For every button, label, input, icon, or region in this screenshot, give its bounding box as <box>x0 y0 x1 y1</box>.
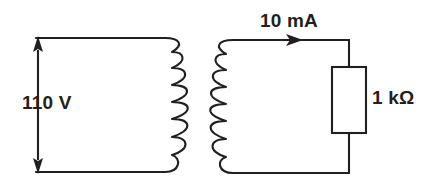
circuit-diagram: 110 V 10 mA 1 kΩ <box>0 0 438 194</box>
resistor-body <box>332 67 366 133</box>
primary-coil-inductor <box>165 38 188 172</box>
resistor-value-label: 1 kΩ <box>372 88 414 107</box>
secondary-current-label: 10 mA <box>260 11 318 30</box>
secondary-circuit-group <box>210 34 366 173</box>
primary-voltage-label: 110 V <box>22 93 72 112</box>
secondary-coil-inductor <box>210 40 233 173</box>
